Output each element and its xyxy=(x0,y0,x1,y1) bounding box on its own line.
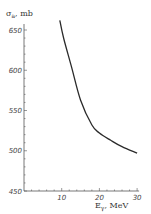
x-axis-ticks: 102030 xyxy=(32,188,143,202)
chart: 450500550600650 102030 σa, mb Eγ, MeV xyxy=(0,0,151,214)
y-axis-label: σa, mb xyxy=(6,9,33,19)
x-axis-label: Eγ, MeV xyxy=(95,201,128,212)
y-tick-label: 500 xyxy=(9,147,23,155)
y-tick-label: 600 xyxy=(9,67,23,75)
y-tick-label: 550 xyxy=(9,107,23,115)
y-tick-label: 450 xyxy=(9,188,23,196)
cross-section-curve xyxy=(60,20,137,153)
x-tick-label: 10 xyxy=(57,194,66,202)
x-tick-label: 30 xyxy=(133,194,142,202)
y-tick-label: 650 xyxy=(9,27,23,35)
axes xyxy=(24,24,139,191)
